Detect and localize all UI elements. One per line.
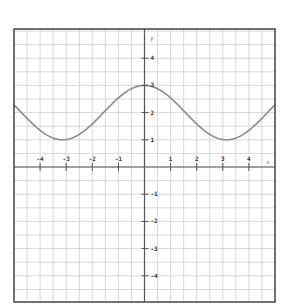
- y-tick-label: 3: [151, 81, 155, 88]
- y-tick-label: -1: [151, 190, 159, 197]
- x-tick-label: -4: [36, 155, 44, 162]
- y-tick-label: 2: [151, 109, 155, 116]
- y-tick-label: -4: [151, 272, 159, 279]
- y-tick-label: 4: [151, 54, 155, 61]
- x-tick-label: 4: [247, 155, 251, 162]
- x-tick-label: -3: [63, 155, 71, 162]
- y-tick-label: -3: [151, 245, 159, 252]
- x-tick-label: -2: [89, 155, 97, 162]
- x-tick-label: 1: [169, 155, 173, 162]
- y-tick-label: 1: [151, 136, 155, 143]
- x-tick-label: 2: [195, 155, 199, 162]
- x-tick-label: -1: [115, 155, 123, 162]
- x-axis-ticks: -4-3-2-11234: [36, 155, 251, 171]
- y-axis-label: y: [150, 34, 154, 42]
- function-graph: -4-3-2-11234 -4-3-2-11234 x y: [0, 0, 286, 307]
- x-axis-label: x: [266, 158, 270, 165]
- x-tick-label: 3: [221, 155, 225, 162]
- y-tick-label: -2: [151, 217, 159, 224]
